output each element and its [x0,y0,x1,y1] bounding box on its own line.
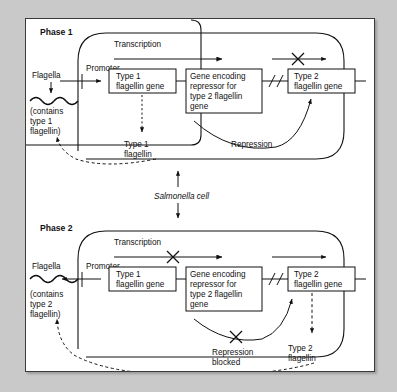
phase-2-product-line-2: flagellin [288,354,316,363]
phase-2-label: Phase 2 [40,223,73,233]
phase-2-repression-blocked-line-1: Repression [212,348,254,357]
phase-2-gene-3-line-1: Type 2 [294,270,319,279]
phase-1-group: Phase 1 Transcription Promoter Flagella … [26,20,366,164]
phase-2-flagella-contents-line-3: flagellin) [30,310,61,319]
phase-2-feedback-line [57,319,314,371]
phase-1-transcription-label: Transcription [114,40,161,49]
phase-2-gene-2-line-3: type 2 flagellin [190,290,243,299]
salmonella-cell-annotation: Salmonella cell [154,171,209,218]
phase-2-gene-2-line-1: Gene encoding [190,270,246,279]
phase-2-repression-block-x [230,331,242,343]
phase-2-gene-1-line-2: flagellin gene [116,280,165,289]
phase-2-flagella-label: Flagella [32,262,61,271]
phase-2-repression-blocked-line-2: blocked [212,358,241,367]
salmonella-cell-label: Salmonella cell [154,192,209,201]
phase-2-gene-2-line-2: repressor for [190,280,237,289]
phase-2-gene-3-line-2: flagellin gene [294,280,343,289]
phase-2-group: Phase 2 Transcription Promoter Flagella … [30,223,366,371]
phase-2-product-line-1: Type 2 [288,344,313,353]
phase-1-product-line-2: flagellin [124,150,152,159]
phase-1-gene-2-line-3: type 2 flagellin [190,92,243,101]
phase-1-gene-2-line-2: repressor for [190,82,237,91]
phase-1-flagella-wavy-line [30,98,78,105]
phase-variation-diagram: Phase 1 Transcription Promoter Flagella … [26,19,374,371]
phase-1-flagella-label: Flagella [32,71,61,80]
phase-1-gene-1-line-1: Type 1 [116,72,141,81]
phase-2-gene-1-line-1: Type 1 [116,270,141,279]
phase-1-flagella-contents-line-3: flagellin) [30,127,61,136]
phase-1-label: Phase 1 [40,27,73,37]
phase-2-transcription-label: Transcription [114,238,161,247]
phase-2-flagella-contents-line-2: type 2 [30,300,53,309]
phase-1-repression-label: Repression [231,140,273,149]
figure-panel: Phase 1 Transcription Promoter Flagella … [25,18,375,372]
phase-1-product-line-1: Type 1 [124,140,149,149]
phase-2-gene-2-line-4: gene [190,300,209,309]
phase-1-flagella-contents-line-1: (contains [30,107,63,116]
phase-1-gene-2-line-1: Gene encoding [190,72,246,81]
phase-1-gene-1-line-2: flagellin gene [116,82,165,91]
phase-1-flagella-contents-line-2: type 1 [30,117,53,126]
phase-2-flagella-contents-line-1: (contains [30,290,63,299]
phase-1-gene-2-line-4: gene [190,102,209,111]
phase-1-gene-3-line-2: flagellin gene [294,82,343,91]
phase-1-gene-3-line-1: Type 2 [294,72,319,81]
